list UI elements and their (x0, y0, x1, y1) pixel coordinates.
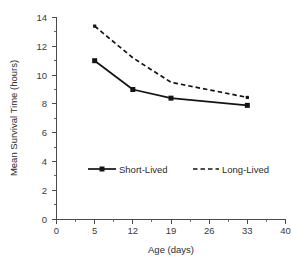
x-axis-title: Age (days) (148, 244, 194, 255)
line-chart: 14 12 10 8 6 4 2 0 (0, 0, 291, 266)
data-point-marker (93, 25, 96, 28)
data-point-marker (245, 103, 250, 108)
y-tick-label: 4 (42, 156, 47, 167)
chart-figure: 14 12 10 8 6 4 2 0 (0, 0, 291, 266)
legend-label-long-lived: Long-Lived (222, 164, 269, 175)
x-tick-label: 33 (242, 225, 253, 236)
x-tick-label: 26 (204, 225, 215, 236)
y-tick-label: 14 (36, 12, 47, 23)
x-tick-label: 19 (166, 225, 177, 236)
y-tick-label: 0 (42, 214, 47, 225)
y-tick-label: 8 (42, 98, 47, 109)
legend-marker-square (100, 167, 105, 172)
data-point-marker (130, 87, 135, 92)
x-tick-label: 40 (280, 225, 291, 236)
y-tick-label: 2 (42, 185, 47, 196)
legend-label-short-lived: Short-Lived (119, 164, 168, 175)
x-tick-label: 0 (54, 225, 59, 236)
y-axis-title: Mean Survival Time (hours) (8, 60, 19, 176)
x-tick-label: 5 (92, 225, 97, 236)
data-point-marker (92, 58, 97, 63)
y-tick-label: 12 (36, 41, 47, 52)
data-point-marker (169, 96, 174, 101)
data-point-marker (246, 96, 249, 99)
x-tick-label: 12 (128, 225, 139, 236)
y-tick-label: 6 (42, 127, 47, 138)
y-tick-label: 10 (36, 70, 47, 81)
